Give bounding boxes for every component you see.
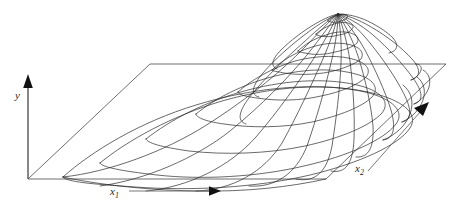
surface-plot-figure: y x1 x2 <box>0 0 462 215</box>
mesh-ring-5 <box>238 56 368 100</box>
x2-axis-label: x2 <box>354 162 364 177</box>
mesh-radial-1 <box>63 14 338 177</box>
x1-axis-group: x1 <box>109 185 221 200</box>
mesh-ring-3 <box>146 81 385 154</box>
x2-axis-line <box>368 111 421 171</box>
base-plane-outline <box>28 64 446 179</box>
mesh-ring-4 <box>196 70 375 127</box>
y-axis-arrowhead <box>23 74 33 88</box>
y-axis-label: y <box>14 89 20 101</box>
mesh-radial-16 <box>240 14 338 124</box>
gaussian-surface-svg: y x1 x2 <box>0 0 462 215</box>
mesh-radial-2 <box>100 14 338 186</box>
mesh-ring-7 <box>298 32 358 55</box>
mesh-radials <box>63 14 421 191</box>
mesh-rings <box>63 14 413 188</box>
mesh-radial-15 <box>253 14 338 97</box>
y-axis-group: y <box>14 74 33 179</box>
x1-axis-label-subscript: 1 <box>115 191 119 200</box>
x2-axis-label-subscript: 2 <box>360 168 364 177</box>
x1-axis-label: x1 <box>109 185 119 200</box>
base-plane <box>28 64 446 179</box>
